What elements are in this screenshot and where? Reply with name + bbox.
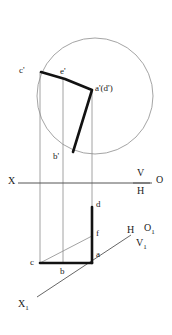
label-v-plane: V (137, 168, 144, 178)
technical-drawing-canvas: c' e' a'(d') b' X V O H d f a c b H O1 V… (0, 0, 172, 335)
label-o1-auxiliary: O1 (144, 223, 155, 236)
label-x1-auxiliary: X1 (18, 299, 29, 312)
label-d: d (96, 200, 101, 209)
auxiliary-ground-line-x1o1 (37, 235, 131, 297)
label-b: b (60, 267, 65, 276)
projection-drawing-svg (0, 0, 172, 335)
label-h-auxiliary: H (127, 225, 134, 235)
label-f: f (96, 229, 99, 238)
label-a: a (96, 250, 100, 259)
locus-circle (37, 38, 153, 154)
label-v1-subscript: 1 (143, 243, 147, 251)
label-b-prime: b' (53, 152, 59, 161)
label-c-prime: c' (19, 66, 25, 75)
label-a-prime-d-prime: a'(d') (95, 84, 113, 93)
label-h-plane: H (137, 186, 144, 196)
label-x-axis: X (8, 176, 15, 186)
front-view-polyline (41, 72, 92, 152)
label-x1-subscript: 1 (25, 304, 29, 312)
construction-line-c-f (40, 236, 92, 263)
label-c: c (30, 258, 34, 267)
label-v1-auxiliary: V1 (136, 238, 147, 251)
label-origin: O (156, 175, 163, 185)
label-e-prime: e' (60, 67, 66, 76)
label-o1-subscript: 1 (151, 228, 155, 236)
